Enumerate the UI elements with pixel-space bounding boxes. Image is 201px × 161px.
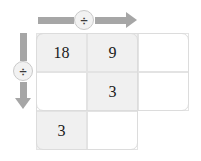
grid-cell-r1c3[interactable] (138, 33, 189, 72)
grid-cell-r1c2[interactable]: 9 (87, 33, 138, 72)
grid-cell-r2c3[interactable] (138, 72, 189, 111)
grid-cell-r3c2[interactable] (87, 111, 138, 150)
grid-cell-r2c1[interactable] (36, 72, 87, 111)
grid-cell-r1c1[interactable]: 18 (36, 33, 87, 72)
puzzle-grid: 18 9 3 3 (0, 0, 201, 161)
division-grid-puzzle: ÷ ÷ 18 9 3 3 (0, 0, 201, 161)
grid-cell-r2c2[interactable]: 3 (87, 72, 138, 111)
grid-cell-r3c1[interactable]: 3 (36, 111, 87, 150)
